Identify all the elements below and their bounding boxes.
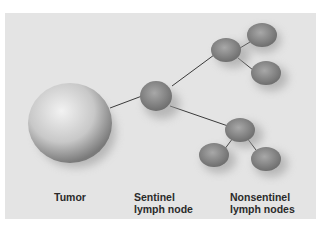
tumor-shape xyxy=(28,83,112,163)
sentinel-label-line1: Sentinel xyxy=(134,191,193,203)
nonsentinel-label-line2: lymph nodes xyxy=(230,203,295,215)
nonsentinel-label-line1: Nonsentinel xyxy=(230,191,295,203)
sentinel-label-line2: lymph node xyxy=(134,203,193,215)
tumor-label: Tumor xyxy=(54,191,86,203)
sentinel-label: Sentinel lymph node xyxy=(134,191,193,215)
sentinel-node-shape xyxy=(140,81,172,111)
nonsentinel-label: Nonsentinel lymph nodes xyxy=(230,191,295,215)
